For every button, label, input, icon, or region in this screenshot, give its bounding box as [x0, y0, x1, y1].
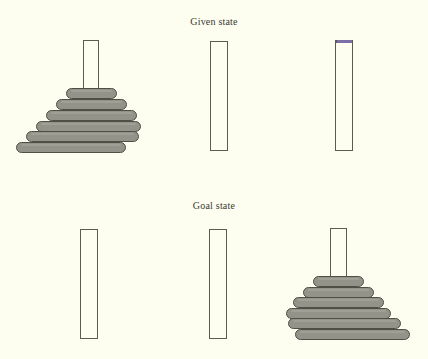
disk[interactable] [288, 318, 401, 329]
given-peg-b[interactable] [210, 41, 228, 151]
disk[interactable] [313, 276, 364, 287]
given-peg-c[interactable] [335, 40, 353, 151]
goal-state-label: Goal state [0, 200, 428, 211]
given-state-label: Given state [0, 16, 428, 27]
goal-peg-a[interactable] [80, 229, 98, 339]
disk[interactable] [56, 99, 127, 110]
disk[interactable] [66, 88, 117, 99]
disk[interactable] [16, 142, 126, 153]
disk[interactable] [26, 131, 139, 142]
disk[interactable] [46, 110, 137, 121]
given-peg-c-accent-cap [336, 40, 353, 43]
tower-of-hanoi-figure: Given state Goal state [0, 0, 428, 359]
disk[interactable] [295, 329, 410, 340]
disk[interactable] [293, 297, 384, 308]
goal-peg-b[interactable] [209, 229, 227, 339]
